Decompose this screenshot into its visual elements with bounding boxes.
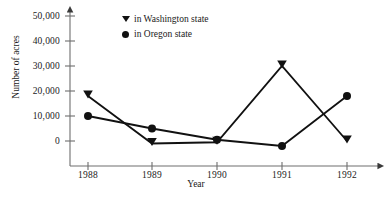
series-line-washington <box>88 66 347 144</box>
data-point-washington-1988 <box>83 91 93 99</box>
triangle-down-marker-icon <box>120 14 131 24</box>
data-point-washington-1991 <box>277 61 287 69</box>
y-axis-title: Number of acres <box>11 17 21 117</box>
legend-item-washington: in Washington state <box>120 14 209 24</box>
data-point-oregon-1990 <box>213 136 221 144</box>
line-chart: 50,000 40,000 30,000 20,000 10,000 0 198… <box>0 0 392 197</box>
legend-label-oregon: in Oregon state <box>134 29 192 39</box>
data-point-oregon-1988 <box>84 112 92 120</box>
series-markers-washington <box>83 61 352 147</box>
data-point-washington-1992 <box>342 136 352 144</box>
data-point-oregon-1991 <box>278 142 286 150</box>
legend-item-oregon: in Oregon state <box>120 29 192 39</box>
circle-marker-icon <box>120 29 131 39</box>
y-tick-label-0: 0 <box>14 136 60 146</box>
legend-label-washington: in Washington state <box>134 14 209 24</box>
data-point-oregon-1992 <box>343 92 351 100</box>
x-axis-title: Year <box>0 179 392 189</box>
chart-plot-area <box>0 0 392 197</box>
data-point-oregon-1989 <box>148 125 156 133</box>
